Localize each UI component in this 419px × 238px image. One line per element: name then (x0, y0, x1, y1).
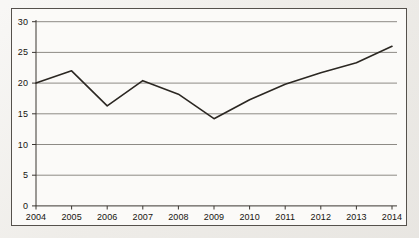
y-tick-label-30: 30 (10, 17, 28, 27)
y-tick-label-10: 10 (10, 140, 28, 150)
gridlines (36, 22, 397, 176)
y-tick-label-0: 0 (10, 201, 28, 211)
x-tick-label-2009: 2009 (197, 212, 231, 222)
line-chart-plot (0, 0, 419, 238)
y-tick-label-20: 20 (10, 78, 28, 88)
chart-screenshot: 30 25 20 15 10 5 0 2004 2005 2006 2007 2… (0, 0, 419, 238)
y-tick-label-15: 15 (10, 109, 28, 119)
x-tick-label-2007: 2007 (126, 212, 160, 222)
x-tick-label-2005: 2005 (55, 212, 89, 222)
x-axis-ticks (36, 206, 392, 210)
x-tick-label-2012: 2012 (304, 212, 338, 222)
data-series-line (36, 46, 392, 118)
y-tick-label-5: 5 (10, 170, 28, 180)
x-tick-label-2013: 2013 (339, 212, 373, 222)
x-tick-label-2014: 2014 (375, 212, 409, 222)
x-tick-label-2006: 2006 (90, 212, 124, 222)
x-tick-label-2004: 2004 (19, 212, 53, 222)
x-tick-label-2010: 2010 (233, 212, 267, 222)
y-tick-label-25: 25 (10, 47, 28, 57)
x-tick-label-2008: 2008 (161, 212, 195, 222)
x-tick-label-2011: 2011 (268, 212, 302, 222)
y-axis-ticks (32, 22, 36, 206)
